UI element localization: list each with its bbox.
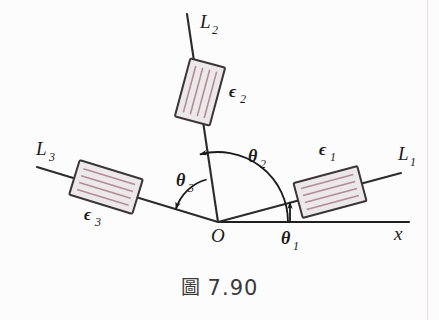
line-L3-label: L: [35, 138, 47, 159]
angle-theta2-label: θ: [248, 146, 258, 166]
angle-theta3-group: θ 3: [176, 170, 207, 209]
angle-theta3-subscript: 3: [187, 181, 194, 195]
line-L1-label: L: [397, 143, 409, 164]
polarizer-eps2-group[interactable]: [175, 58, 225, 125]
polarizer-eps3-group[interactable]: [69, 160, 143, 214]
x-axis-group: x: [218, 222, 409, 244]
polarizer-eps1-group[interactable]: [293, 166, 366, 218]
line-L3-subscript: 3: [48, 150, 55, 164]
polarizer-eps2-subscript: 2: [240, 92, 246, 106]
angle-theta3-label: θ: [176, 170, 186, 190]
line-L2-subscript: 2: [212, 23, 218, 37]
line-L2-label: L: [199, 11, 211, 32]
polarizer-eps2-label: ϵ: [229, 82, 237, 101]
figure-caption-glyph: 圖: [181, 276, 201, 298]
origin-label: O: [211, 225, 225, 246]
angle-theta1-group: θ 1: [281, 202, 299, 253]
x-axis-label: x: [393, 223, 403, 244]
figure-caption: 圖7.90: [0, 272, 439, 300]
angle-theta1-label: θ: [281, 228, 291, 248]
figure-caption-number: 7.90: [208, 276, 259, 300]
polarizer-eps3-subscript: 3: [94, 215, 101, 229]
angle-theta2-subscript: 2: [260, 157, 266, 171]
figure-page: x L 3 L 2 L 1 θ 2 θ 3: [0, 0, 439, 320]
polarizer-eps3-label: ϵ: [84, 205, 92, 224]
polarizer-eps3-body[interactable]: [69, 160, 143, 214]
polarizer-eps1-subscript: 1: [330, 150, 336, 164]
line-L1-subscript: 1: [410, 155, 416, 169]
polarizer-eps1-body[interactable]: [293, 166, 366, 218]
angle-theta1-subscript: 1: [293, 239, 299, 253]
polarizer-eps2-body[interactable]: [175, 58, 225, 125]
polarizer-eps1-label: ϵ: [319, 140, 327, 159]
